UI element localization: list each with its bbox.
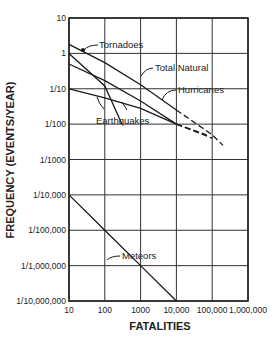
y-axis-label: FREQUENCY (EVENTS/YEAR) xyxy=(4,81,16,238)
y-tick-label: 1/10,000,000 xyxy=(16,296,66,306)
label-tornadoes: Tornadoes xyxy=(99,39,144,50)
grid xyxy=(69,18,248,301)
label-total-natural: Total Natural xyxy=(155,62,208,73)
x-tick-labels: 10100100010,000100,0001,000,000 xyxy=(64,305,267,315)
x-tick-label: 1,000,000 xyxy=(229,305,267,315)
y-tick-label: 1 xyxy=(61,48,66,58)
y-tick-label: 1/10 xyxy=(49,84,66,94)
y-tick-labels: 1011/101/1001/10001/10,0001/100,0001/1,0… xyxy=(16,13,66,306)
x-tick-label: 100 xyxy=(98,305,112,315)
y-tick-label: 1/1000 xyxy=(40,155,66,165)
tornadoes-marker xyxy=(81,48,85,52)
series-earthquakes-extrapolated xyxy=(176,124,206,135)
series-meteors xyxy=(69,195,176,301)
x-tick-label: 10 xyxy=(64,305,74,315)
x-axis-label: FATALITIES xyxy=(129,320,190,332)
x-tick-label: 100,000 xyxy=(197,305,228,315)
label-meteors: Meteors xyxy=(122,250,157,261)
y-tick-label: 10 xyxy=(57,13,67,23)
y-tick-label: 1/1,000,000 xyxy=(21,261,66,271)
x-tick-label: 1000 xyxy=(131,305,150,315)
series-total-natural xyxy=(69,44,176,110)
series-total-natural-extrapolated xyxy=(176,110,223,145)
y-tick-label: 1/100 xyxy=(45,119,67,129)
y-tick-label: 1/100,000 xyxy=(28,225,66,235)
series-lines xyxy=(69,44,223,301)
label-earthquakes: Earthquakes xyxy=(96,115,150,126)
label-hurricanes: Hurricanes xyxy=(178,84,224,95)
y-tick-label: 1/10,000 xyxy=(33,190,66,200)
x-tick-label: 10,000 xyxy=(163,305,189,315)
frequency-fatality-chart: 1011/101/1001/10001/10,0001/100,0001/1,0… xyxy=(0,0,278,347)
